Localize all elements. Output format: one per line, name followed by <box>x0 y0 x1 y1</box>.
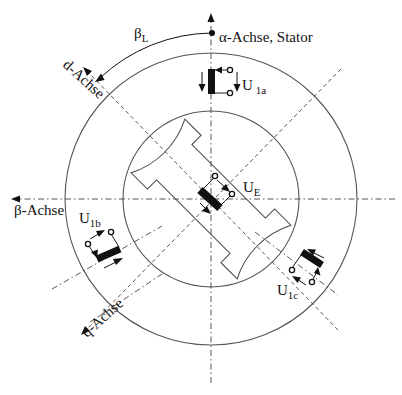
coil-ue <box>200 173 235 214</box>
u1a-symbol: U <box>242 77 253 93</box>
beta-l-label: βL <box>134 25 149 44</box>
beta-l-arc <box>95 33 212 82</box>
coil-u1c <box>289 249 324 285</box>
u1c-label: U1c <box>277 282 298 301</box>
u1a-label: U1a <box>242 77 266 96</box>
beta-l-symbol: β <box>134 25 142 41</box>
u1b-subscript: 1b <box>90 217 102 229</box>
coil-u1a <box>199 67 241 96</box>
phase-c-axis <box>255 232 338 295</box>
coil-u1b <box>85 229 123 268</box>
ue-label: UE <box>243 179 261 198</box>
beta-l-subscript: L <box>142 32 149 44</box>
u1b-label: U1b <box>79 210 101 229</box>
ue-symbol: U <box>243 179 254 195</box>
machine-diagram: α-Achse, Stator βL d-Achse β-Achse q-Ach… <box>0 0 402 395</box>
beta-axis-label: β-Achse <box>14 202 64 218</box>
ue-subscript: E <box>254 186 261 198</box>
u1a-subscript: 1a <box>256 84 267 96</box>
alpha-axis-label: α-Achse, Stator <box>219 29 313 45</box>
u1b-symbol: U <box>79 210 90 226</box>
u1c-subscript: 1c <box>288 289 299 301</box>
q-axis-label: q-Achse <box>78 295 126 341</box>
u1c-symbol: U <box>277 282 288 298</box>
